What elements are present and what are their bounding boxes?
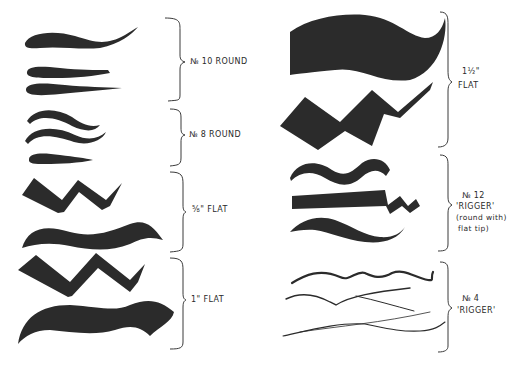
label-one-inch-flat: 1" FLAT	[191, 294, 224, 305]
stroke-no10-round-1	[25, 27, 138, 49]
brace-no4	[438, 262, 452, 352]
label-one-half-flat: FLAT	[458, 80, 479, 91]
stroke-no8-round-1	[27, 110, 100, 130]
stroke-no12-rigger-1	[290, 159, 390, 185]
brush-strokes-illustration	[0, 0, 520, 366]
label-no4-rigger: 'RIGGER'	[457, 305, 496, 316]
stroke-one-inch-flat-zigzag	[18, 253, 145, 297]
label-no10-round: № 10 ROUND	[190, 56, 247, 67]
brush-stroke-figure: № 10 ROUND № 8 ROUND ⅝" FLAT 1" FLAT 1½"…	[0, 0, 520, 366]
brace-no8	[170, 109, 185, 166]
brace-one-inch	[170, 258, 186, 349]
stroke-no4-rigger-3	[356, 296, 414, 311]
stroke-no4-rigger-1	[292, 272, 433, 283]
brace-no10	[165, 18, 185, 101]
stroke-no4-rigger-2	[286, 288, 410, 305]
stroke-no8-round-2	[25, 129, 106, 144]
label-no12-number: № 12	[462, 190, 485, 201]
stroke-one-inch-flat-wave	[18, 301, 174, 344]
stroke-no12-rigger-3	[290, 218, 405, 243]
stroke-no10-round-3	[26, 84, 122, 96]
brace-five-eighths	[170, 172, 186, 252]
stroke-no12-rigger-2	[292, 190, 420, 214]
stroke-one-half-flat-zigzag	[280, 82, 433, 150]
label-one-half-size: 1½"	[462, 66, 480, 77]
stroke-five-eighths-flat-zigzag	[22, 178, 122, 213]
label-no4-number: № 4	[462, 293, 479, 304]
label-no12-rigger: 'RIGGER'	[456, 201, 495, 212]
stroke-no4-rigger-4	[283, 322, 445, 336]
label-five-eighths-flat: ⅝" FLAT	[192, 204, 228, 215]
stroke-one-half-flat-wave	[290, 15, 446, 81]
stroke-no4-rigger-5	[300, 312, 430, 332]
stroke-no10-round-2	[27, 67, 110, 78]
label-no8-round: № 8 ROUND	[189, 129, 241, 140]
brace-no12	[438, 155, 452, 251]
label-no12-note-2: flat tip)	[458, 224, 489, 234]
label-no12-note-1: (round with)	[456, 213, 507, 223]
stroke-five-eighths-flat-wave	[22, 222, 163, 249]
stroke-no8-round-3	[29, 154, 93, 164]
